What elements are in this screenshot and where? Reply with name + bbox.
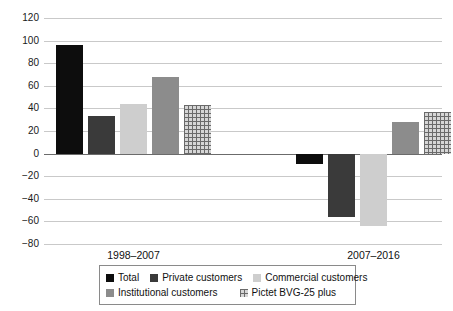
gridline-40: [44, 108, 442, 109]
y-axis-tick-label: −80: [22, 239, 39, 249]
y-axis-tick-label: −40: [22, 194, 39, 204]
chart-legend: Total Private customers Commercial custo…: [99, 265, 356, 305]
x-axis-category-label: 1998–2007: [107, 249, 160, 261]
legend-label-commercial: Commercial customers: [265, 273, 367, 283]
bar-chart: 120100806040200−20−40−60−80 Total Privat…: [0, 0, 453, 311]
bar-private-customers-group-2: [328, 154, 355, 217]
gridline-80: [44, 63, 442, 64]
bar-total-group-1: [56, 45, 83, 153]
bar-institutional-customers-group-1: [152, 77, 179, 154]
legend-swatch-institutional-icon: [106, 289, 114, 297]
x-axis-category-label: 2007–2016: [347, 249, 400, 261]
gridline-60: [44, 86, 442, 87]
legend-swatch-pictet-icon: [240, 289, 248, 297]
gridline-100: [44, 41, 442, 42]
y-axis-tick-label: 40: [28, 103, 39, 113]
y-axis-tick-label: 80: [28, 58, 39, 68]
bar-pictet-bvg-25-plus-group-2: [424, 112, 451, 154]
y-axis-tick-label: −20: [22, 171, 39, 181]
y-axis-tick-label: 20: [28, 126, 39, 136]
y-axis-tick-label: 100: [22, 36, 39, 46]
bar-commercial-customers-group-1: [120, 104, 147, 154]
y-axis-tick-label: 0: [33, 149, 39, 159]
bar-private-customers-group-1: [88, 116, 115, 153]
bar-institutional-customers-group-2: [392, 122, 419, 154]
legend-swatch-private-icon: [150, 274, 158, 282]
plot-area: 120100806040200−20−40−60−80: [44, 18, 442, 244]
y-axis-tick-label: −60: [22, 216, 39, 226]
legend-item-pictet: Pictet BVG-25 plus: [240, 288, 336, 298]
gridline--80: [44, 244, 442, 245]
legend-item-total: Total: [106, 273, 139, 283]
legend-row-1: Total Private customers Commercial custo…: [106, 270, 349, 285]
bar-commercial-customers-group-2: [360, 154, 387, 226]
legend-row-2: Institutional customers Pictet BVG-25 pl…: [106, 285, 349, 300]
legend-label-institutional: Institutional customers: [118, 288, 218, 298]
bar-pictet-bvg-25-plus-group-1: [184, 105, 211, 154]
legend-label-pictet: Pictet BVG-25 plus: [252, 288, 336, 298]
y-axis-tick-label: 120: [22, 13, 39, 23]
legend-item-commercial: Commercial customers: [253, 273, 367, 283]
legend-label-total: Total: [118, 273, 139, 283]
legend-label-private: Private customers: [162, 273, 242, 283]
legend-item-institutional: Institutional customers: [106, 288, 218, 298]
bar-total-group-2: [296, 154, 323, 164]
legend-swatch-total-icon: [106, 274, 114, 282]
legend-item-private: Private customers: [150, 273, 242, 283]
gridline-120: [44, 18, 442, 19]
y-axis-tick-label: 60: [28, 81, 39, 91]
legend-swatch-commercial-icon: [253, 274, 261, 282]
